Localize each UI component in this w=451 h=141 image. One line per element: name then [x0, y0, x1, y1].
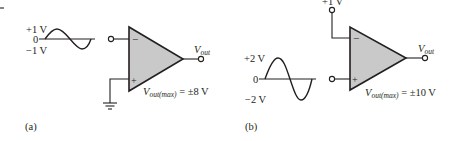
a-panel-label: (a)	[25, 121, 37, 133]
figure-b: +1 V +2 V 0 −2 V − + Vout Vout(max) = ±1…	[244, 0, 436, 133]
comparator-diagram: +1 V 0 −1 V − + Vout Vout(max) = ±8 V (a…	[0, 0, 451, 141]
b-reference-terminal	[329, 7, 334, 12]
a-zero-label: 0	[33, 34, 38, 45]
a-vout-max-label: Vout(max) = ±8 V	[143, 86, 209, 99]
a-noninverting-wire	[110, 79, 129, 103]
a-inverting-terminal	[108, 36, 113, 41]
figure-a: +1 V 0 −1 V − + Vout Vout(max) = ±8 V (a…	[25, 24, 211, 133]
b-peak-neg-label: −2 V	[245, 94, 267, 105]
ground-icon	[103, 103, 117, 109]
b-inverting-wire	[332, 13, 350, 38]
b-panel-label: (b)	[245, 121, 258, 133]
b-vout-label: Vout	[418, 43, 435, 56]
b-output-terminal	[422, 55, 427, 60]
b-peak-pos-label: +2 V	[244, 53, 266, 64]
b-plus-symbol: +	[352, 74, 358, 85]
b-vout-max-label: Vout(max) = ±10 V	[365, 87, 436, 100]
a-vout-label: Vout	[194, 44, 211, 57]
b-minus-symbol: −	[353, 32, 359, 44]
a-minus-symbol: −	[132, 33, 138, 45]
a-plus-symbol: +	[131, 75, 137, 86]
b-zero-label: 0	[253, 74, 258, 85]
b-reference-label: +1 V	[322, 0, 344, 7]
a-output-terminal	[198, 56, 203, 61]
a-peak-neg-label: −1 V	[26, 45, 48, 56]
b-noninverting-terminal	[329, 76, 334, 81]
